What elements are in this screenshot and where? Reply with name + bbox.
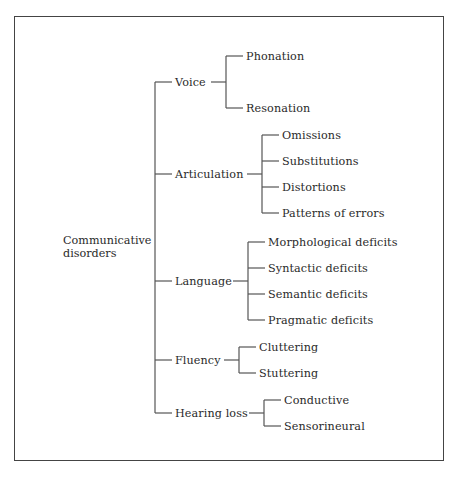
leaf-phonation: Phonation <box>245 50 305 63</box>
leaf-pragmatic-deficits: Pragmatic deficits <box>267 314 374 327</box>
leaf-semantic-deficits: Semantic deficits <box>267 288 369 301</box>
root-label-line2: disorders <box>63 247 151 260</box>
category-hearing-loss: Hearing loss <box>174 407 249 420</box>
leaf-patterns-of-errors: Patterns of errors <box>281 207 386 220</box>
leaf-morphological-deficits: Morphological deficits <box>267 236 399 249</box>
category-language: Language <box>174 275 233 288</box>
leaf-distortions: Distortions <box>281 181 347 194</box>
root-node: Communicative disorders <box>63 234 151 260</box>
leaf-omissions: Omissions <box>281 129 342 142</box>
leaf-sensorineural: Sensorineural <box>283 420 366 433</box>
leaf-substitutions: Substitutions <box>281 155 360 168</box>
leaf-resonation: Resonation <box>245 102 311 115</box>
root-label-line1: Communicative <box>63 234 151 247</box>
category-articulation: Articulation <box>174 168 244 181</box>
leaf-stuttering: Stuttering <box>258 367 319 380</box>
leaf-cluttering: Cluttering <box>258 341 319 354</box>
leaf-syntactic-deficits: Syntactic deficits <box>267 262 369 275</box>
category-fluency: Fluency <box>174 354 222 367</box>
category-voice: Voice <box>174 76 207 89</box>
leaf-conductive: Conductive <box>283 394 350 407</box>
